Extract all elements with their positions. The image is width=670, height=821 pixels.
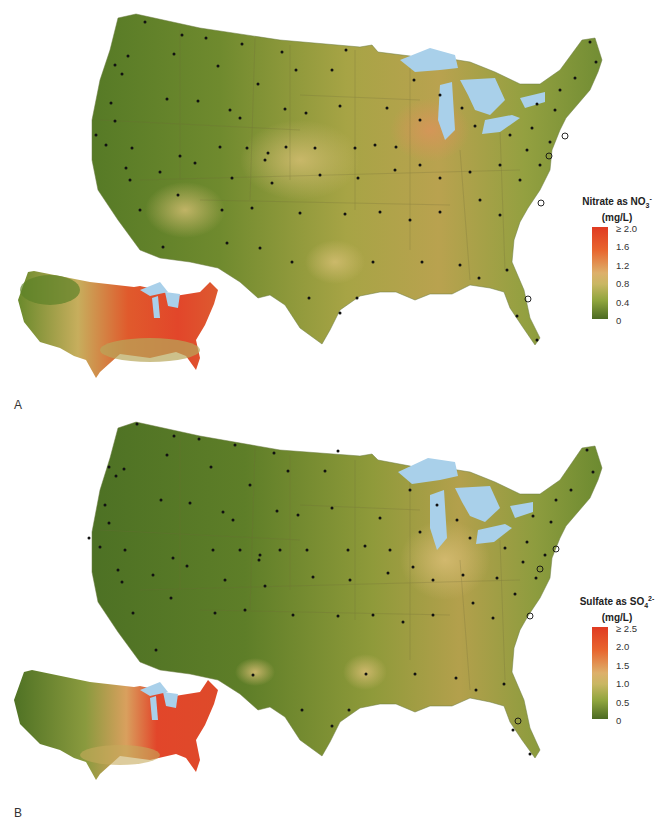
color-scale-bar <box>592 627 608 719</box>
sulfate-legend: Sulfate as SO42- (mg/L) ≥ 2.5 2.0 1.5 1.… <box>562 593 670 624</box>
midwest-hotspot <box>390 98 470 162</box>
panel-a-nitrate-map: Nitrate as NO3- (mg/L) ≥ 2.0 1.6 1.2 0.8… <box>0 0 670 410</box>
nitrate-inset-map <box>18 271 218 378</box>
panel-b-sulfate-map: Sulfate as SO42- (mg/L) ≥ 2.5 2.0 1.5 1.… <box>0 410 670 821</box>
sulfate-inset-map <box>14 670 218 780</box>
nitrate-legend: Nitrate as NO3- (mg/L) ≥ 2.0 1.6 1.2 0.8… <box>562 193 670 224</box>
legend-title: Nitrate as NO3- (mg/L) <box>562 193 670 224</box>
color-scale-bar <box>592 227 608 319</box>
panel-label-b: B <box>14 806 22 820</box>
legend-title: Sulfate as SO42- (mg/L) <box>562 593 670 624</box>
